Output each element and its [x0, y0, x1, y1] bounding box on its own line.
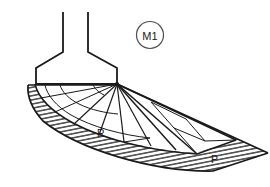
plateau-mask [0, 70, 270, 187]
chute-right-wall [88, 12, 117, 84]
chute-structure [36, 12, 117, 84]
fan-apex-node [115, 82, 119, 86]
hatched-ground-region [0, 70, 270, 187]
label-p: P [211, 153, 218, 165]
technical-line-drawing: M1 R P [0, 0, 270, 187]
callout-m1: M1 [137, 22, 164, 49]
chute-left-wall [36, 12, 63, 84]
callout-label: M1 [142, 30, 157, 42]
label-r: R [97, 127, 105, 139]
figure-container: M1 R P [0, 0, 270, 187]
